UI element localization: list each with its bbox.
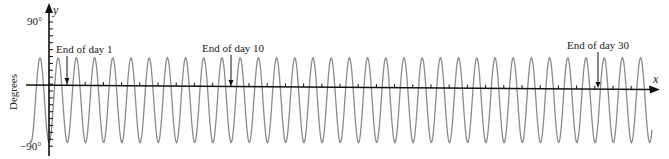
y-axis-arrow-icon: [45, 3, 53, 13]
x-axis-label: x: [652, 72, 659, 86]
x-axis-arrow-icon: [649, 86, 660, 94]
arrow-down-icon: [596, 82, 601, 88]
arrow-down-icon: [65, 78, 70, 84]
sine-chart: x y 90° −90° Degrees End of day 1 End of…: [0, 0, 669, 159]
annotation-day-30: End of day 30: [567, 39, 630, 51]
x-axis: [26, 85, 650, 90]
y-top-label: 90°: [27, 15, 42, 27]
sine-curve: [30, 58, 652, 143]
y-bottom-label: −90°: [20, 140, 42, 152]
degrees-label: Degrees: [7, 74, 19, 110]
annotation-day-1: End of day 1: [56, 43, 113, 55]
annotation-day-10: End of day 10: [202, 42, 265, 54]
arrow-down-icon: [229, 80, 234, 86]
y-axis-label: y: [52, 3, 59, 17]
